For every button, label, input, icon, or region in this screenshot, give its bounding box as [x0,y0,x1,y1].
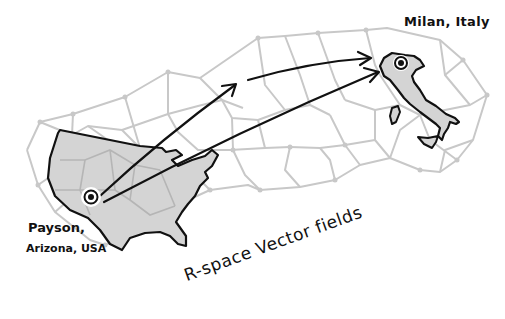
origin-label-line1: Payson, [28,220,85,235]
arrow-mid-to-milan [248,58,370,80]
map-illustration [0,0,505,319]
origin-label-line2: Arizona, USA [26,242,106,255]
sicily-shape [418,136,438,148]
destination-marker [393,55,409,71]
italy-shape [380,53,459,140]
destination-label: Milan, Italy [404,14,490,29]
sardinia-shape [390,106,400,124]
origin-marker [82,188,100,206]
